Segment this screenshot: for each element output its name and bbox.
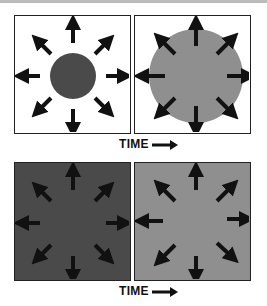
- dense-circle: [50, 53, 96, 99]
- time-arrow-icon: [152, 287, 178, 297]
- panel-light-uniform: [134, 162, 251, 281]
- expanding-small-circle-diagram: [15, 16, 129, 132]
- time-label-top: TIME: [119, 137, 178, 151]
- top-divider: [0, 0, 267, 3]
- panel-large-circle: [134, 15, 251, 134]
- panel-dark-uniform: [14, 162, 131, 281]
- light-square-arrows: [135, 163, 249, 279]
- expanding-large-circle-diagram: [135, 16, 249, 132]
- time-label-bottom: TIME: [119, 284, 178, 298]
- time-arrow-icon: [152, 140, 178, 150]
- dark-square-arrows: [15, 163, 129, 279]
- panel-small-circle: [14, 15, 131, 134]
